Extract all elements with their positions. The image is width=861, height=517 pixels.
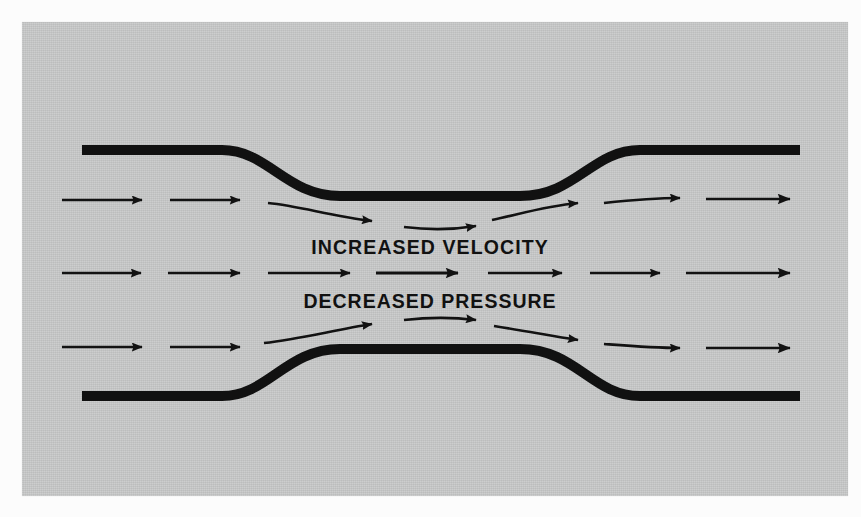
streamline-arrow-l5 <box>494 326 578 340</box>
streamline-arrow-l4 <box>404 318 476 320</box>
decreased-pressure-label: DECREASED PRESSURE <box>303 290 556 313</box>
venturi-diagram-figure: INCREASED VELOCITY DECREASED PRESSURE <box>0 0 861 517</box>
streamline-arrow-u5 <box>492 203 578 220</box>
streamline-arrow-l6 <box>604 344 680 348</box>
streamline-arrow-u6 <box>604 198 680 203</box>
streamline-arrow-u4 <box>404 226 476 229</box>
top-wall <box>82 150 800 196</box>
lower-streamline-row <box>62 318 790 348</box>
streamline-arrow-l3 <box>264 324 372 343</box>
bottom-wall <box>82 349 800 396</box>
streamline-arrow-u3 <box>268 203 372 221</box>
increased-velocity-label: INCREASED VELOCITY <box>311 236 549 259</box>
upper-streamline-row <box>62 198 790 229</box>
